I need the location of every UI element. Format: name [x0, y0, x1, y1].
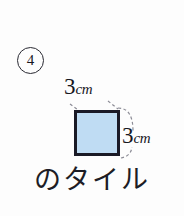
- item-number-label: 4: [27, 53, 35, 68]
- dimension-top-unit: cm: [76, 81, 93, 97]
- guide-tick-top-right: [108, 101, 118, 109]
- item-number-badge: 4: [17, 47, 44, 74]
- dimension-label-right: 3cm: [122, 124, 150, 147]
- figure-caption: のタイル: [0, 166, 184, 194]
- dimension-top-value: 3: [64, 74, 76, 99]
- tile-square-shape: [74, 110, 120, 156]
- worksheet-figure: 4 3cm 3cm のタイル: [0, 0, 184, 216]
- guide-arc-bottom-right: [121, 147, 132, 158]
- dimension-right-value: 3: [122, 123, 134, 148]
- dimension-label-top: 3cm: [64, 75, 92, 98]
- dimension-right-unit: cm: [134, 130, 151, 146]
